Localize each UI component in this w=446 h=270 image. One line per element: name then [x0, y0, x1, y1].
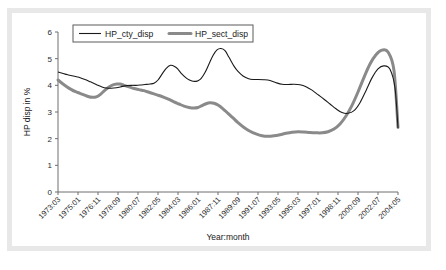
y-tick-label: 5	[48, 55, 53, 64]
y-tick-label: 1	[48, 161, 53, 170]
line-chart: 0123456HP disp in %1973:031975:011976:11…	[0, 0, 446, 270]
y-axis-title: HP disp in %	[22, 87, 32, 136]
y-tick-label: 4	[48, 81, 53, 90]
legend-label-hp-sect-disp: HP_sect_disp	[195, 29, 248, 39]
y-tick-label: 2	[48, 135, 53, 144]
x-axis-title: Year:month	[206, 232, 249, 242]
x-tick-label: 2004:05	[377, 195, 403, 221]
y-tick-label: 0	[48, 188, 53, 197]
legend-label-hp-cty-disp: HP_cty_disp	[105, 29, 153, 39]
figure-caption-strip	[0, 259, 446, 270]
y-tick-label: 6	[48, 28, 53, 37]
series-line-hp-sect-disp	[58, 50, 398, 137]
y-tick-label: 3	[48, 108, 53, 117]
